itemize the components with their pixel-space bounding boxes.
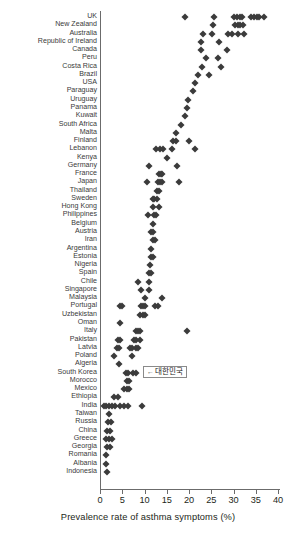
data-point [210,22,217,29]
data-point [192,146,199,153]
data-point [102,460,109,467]
x-axis-tick [167,489,168,494]
x-axis-tick [100,489,101,494]
data-point [115,361,122,368]
data-point [260,13,267,20]
x-axis-tick [234,489,235,494]
data-point [105,410,112,417]
x-axis-tick-label: 40 [265,495,291,505]
data-point [103,452,110,459]
data-point [173,129,180,136]
data-point [217,63,224,70]
data-point [125,402,132,409]
data-point [138,402,145,409]
data-point [168,146,175,153]
x-axis-tick [189,489,190,494]
asthma-prevalence-chart: UKNew ZealandAustraliaRepublic of Irelan… [0,0,296,549]
data-point [149,220,156,227]
data-point [181,113,188,120]
data-point [241,30,248,37]
data-point [205,71,212,78]
data-point [155,204,162,211]
y-axis-line [100,11,101,489]
data-point [163,154,170,161]
x-axis-tick [278,489,279,494]
data-point [210,13,217,20]
data-point [191,80,198,87]
data-point [134,278,141,285]
data-point [137,336,144,343]
data-point [104,468,111,475]
annotation-text: 대한민국 [155,367,183,376]
data-point [145,162,152,169]
data-point [195,71,202,78]
data-point [159,295,166,302]
data-point [144,179,151,186]
data-point [185,96,192,103]
annotation-callout-south-korea: ←대한민국 [143,366,187,378]
data-point [181,13,188,20]
data-point [176,179,183,186]
arrow-left-icon: ← [147,368,155,375]
x-axis-title: Prevalence rate of asthma symptoms (%) [0,512,296,522]
x-axis-tick [211,489,212,494]
data-point [209,30,216,37]
data-point [190,88,197,95]
data-point [147,262,154,269]
data-point [173,162,180,169]
data-point [145,286,152,293]
data-point [185,138,192,145]
x-axis-tick [145,489,146,494]
data-point [215,55,222,62]
data-point [203,55,210,62]
data-point [183,104,190,111]
data-point [199,63,206,70]
data-point [141,295,148,302]
data-point [133,369,140,376]
data-point [178,121,185,128]
data-point [138,286,145,293]
data-point [117,336,124,343]
plot-area [0,0,296,549]
data-point [128,353,135,360]
data-point [197,38,204,45]
data-point [200,30,207,37]
data-point [148,245,155,252]
data-point [146,278,153,285]
data-point [111,353,118,360]
data-point [216,38,223,45]
x-axis-tick [256,489,257,494]
data-point [224,47,231,54]
x-axis-tick [122,489,123,494]
data-point [197,47,204,54]
data-point [116,319,123,326]
data-point [114,394,121,401]
data-point [183,328,190,335]
